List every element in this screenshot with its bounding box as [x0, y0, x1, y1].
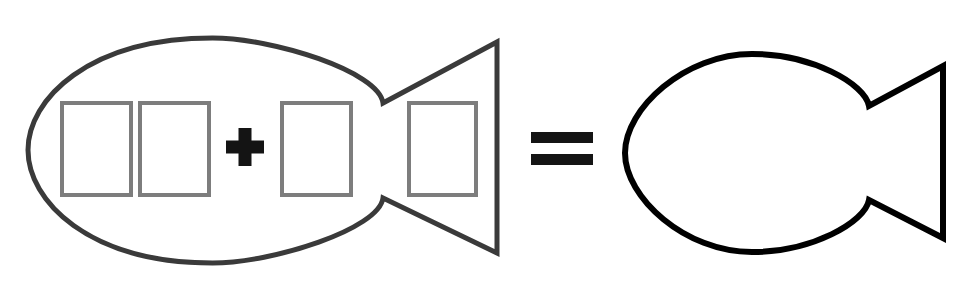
equals-icon	[531, 132, 593, 165]
figure-canvas: A gray fish outline containing four empt…	[0, 0, 969, 284]
right-fish-group[interactable]	[625, 54, 943, 252]
right-fish-outline	[625, 54, 943, 252]
plus-icon	[226, 128, 264, 166]
inner-rect-2[interactable]	[140, 103, 209, 195]
equals-bar-bottom	[531, 154, 593, 165]
inner-rect-4[interactable]	[409, 103, 476, 195]
fish-equation-diagram	[0, 0, 969, 284]
equals-bar-top	[531, 132, 593, 143]
left-fish-group[interactable]	[28, 38, 497, 263]
inner-rect-3[interactable]	[282, 103, 351, 195]
inner-rect-1[interactable]	[62, 103, 131, 195]
